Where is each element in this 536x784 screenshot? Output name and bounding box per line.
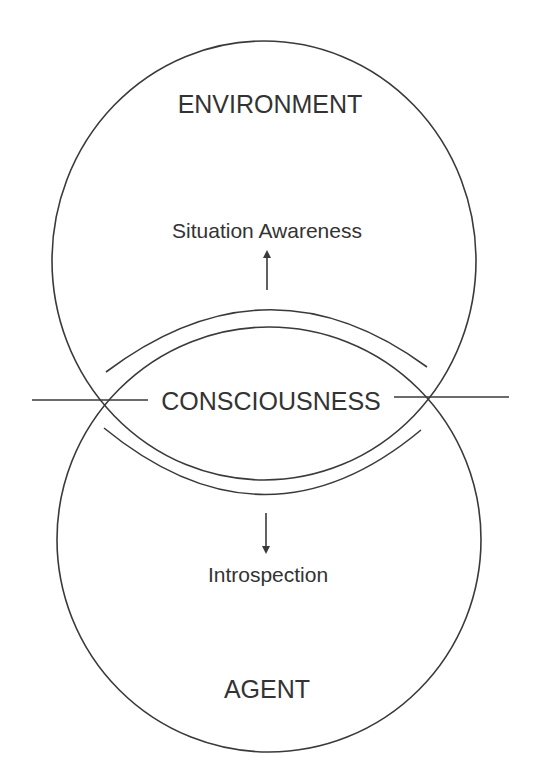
situation-awareness-label: Situation Awareness	[172, 219, 362, 242]
upper-boundary-arc	[106, 310, 427, 372]
environment-label: ENVIRONMENT	[178, 90, 363, 118]
introspection-label: Introspection	[208, 563, 328, 586]
agent-label: AGENT	[224, 675, 310, 703]
consciousness-diagram: ENVIRONMENT Situation Awareness CONSCIOU…	[0, 0, 536, 784]
consciousness-label: CONSCIOUSNESS	[161, 387, 380, 415]
lower-boundary-arc	[104, 428, 421, 495]
